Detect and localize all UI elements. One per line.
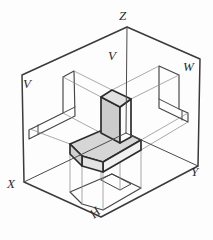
label-axis-y: Y: [191, 165, 198, 178]
top-view-outline: [70, 174, 141, 210]
label-plane-v-upper: V: [108, 49, 116, 62]
front-view-outline: [29, 71, 75, 139]
label-axis-z: Z: [119, 9, 126, 22]
projection-ray-v-4: [30, 129, 70, 144]
label-axis-x: X: [7, 177, 15, 190]
projection-ray-w-2: [131, 75, 179, 99]
label-plane-w: W: [183, 60, 194, 73]
projection-figure: Z V W V X Y H: [0, 0, 213, 240]
projection-ray-w-1: [112, 66, 159, 90]
projection-ray-v-3: [63, 113, 101, 133]
front-view-slab-base-line: [63, 107, 75, 113]
projection-ray-v-2: [63, 77, 101, 97]
side-view-outline: [159, 66, 188, 122]
label-plane-v-left: V: [23, 77, 31, 90]
projection-drawing-svg: [0, 0, 213, 240]
projection-ray-v-1: [74, 71, 112, 90]
side-view-slab-base-line: [159, 99, 179, 109]
